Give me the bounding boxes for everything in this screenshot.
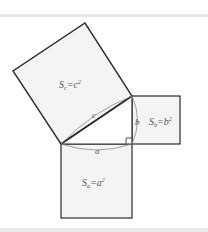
- pythagoras-diagram: c a b Sc=c2 Sb=b2 Sa=a2: [0, 0, 208, 232]
- area-label-c: Sc=c2: [59, 79, 81, 91]
- area-label-b: Sb=b2: [149, 116, 172, 128]
- side-label-a: a: [95, 146, 100, 156]
- side-label-b: b: [135, 117, 140, 127]
- area-label-a: Sa=a2: [82, 177, 105, 189]
- side-label-c: c: [92, 110, 96, 120]
